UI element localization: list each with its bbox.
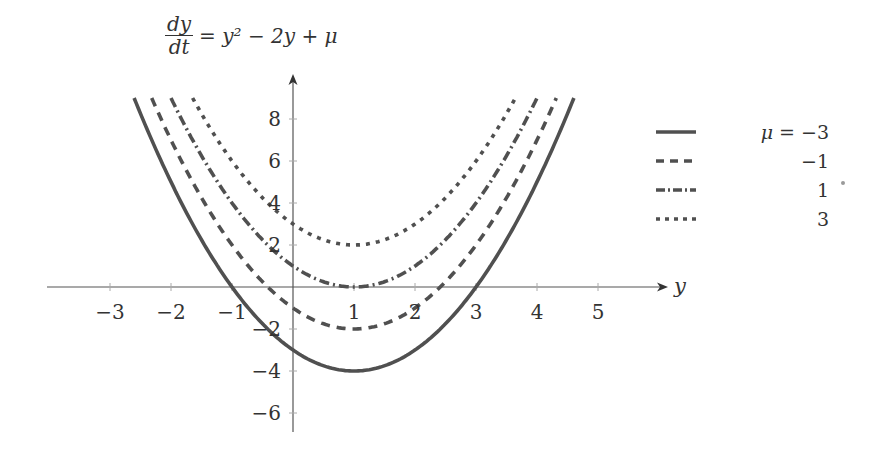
dash-dot-line-swatch-icon (655, 184, 697, 196)
axes (47, 74, 668, 432)
y-tick-label: 8 (268, 107, 281, 131)
legend-item-mu-3: 3 (655, 204, 837, 233)
y-tick-label: −6 (252, 401, 281, 425)
legend-label: μ = −3 (701, 121, 837, 143)
stray-mark (841, 181, 845, 185)
y-tick-label: −2 (252, 317, 281, 341)
equation-rhs: = y² − 2y + μ (199, 24, 337, 48)
curve-mu-neg1 (152, 98, 557, 329)
legend-item-mu-1: 1 (655, 175, 837, 204)
y-tick-label: −4 (252, 359, 281, 383)
x-tick-label: 1 (348, 300, 361, 324)
solid-line-swatch-icon (655, 126, 697, 138)
legend-label: 3 (701, 208, 837, 230)
dotted-line-swatch-icon (655, 213, 697, 225)
y-tick-label: 2 (268, 233, 281, 257)
x-tick-label: 5 (592, 300, 605, 324)
x-tick-label: −2 (156, 300, 185, 324)
curves (134, 98, 574, 371)
x-tick-label: −1 (217, 300, 246, 324)
legend-label: 1 (701, 179, 837, 201)
x-axis-label: y (673, 274, 687, 298)
legend-label: −1 (701, 150, 837, 172)
legend: μ = −3 −1 1 3 (655, 117, 837, 233)
x-tick-label: 4 (531, 300, 544, 324)
x-tick-label: 3 (470, 300, 483, 324)
legend-item-mu-neg3: μ = −3 (655, 117, 837, 146)
derivative-fraction: dy dt (165, 14, 193, 58)
chart-title: dy dt = y² − 2y + μ (165, 14, 338, 58)
dashed-line-swatch-icon (655, 155, 697, 167)
curve-mu-1 (171, 98, 537, 287)
x-tick-label: 2 (409, 300, 422, 324)
equals-sign: = (199, 24, 222, 48)
curve-mu-3 (193, 98, 516, 245)
x-tick-label: −3 (95, 300, 124, 324)
fraction-denominator: dt (169, 36, 190, 58)
y-tick-label: 4 (268, 191, 281, 215)
legend-item-mu-neg1: −1 (655, 146, 837, 175)
tick-labels: −3−2−112345−6−4−22468y (95, 107, 687, 425)
fraction-numerator: dy (165, 14, 193, 36)
y-tick-label: 6 (268, 149, 281, 173)
equation-expression: y² − 2y + μ (222, 24, 337, 48)
